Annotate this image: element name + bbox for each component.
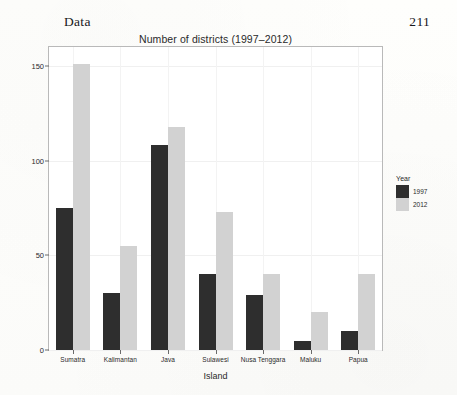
legend-swatch-2012: [396, 198, 409, 211]
bar-java-1997: [151, 145, 168, 350]
x-tick-label-papua: Papua: [349, 356, 368, 363]
x-tick-mark: [358, 350, 359, 354]
x-tick-label-maluku: Maluku: [300, 356, 321, 363]
x-tick-label-nusa-tenggara: Nusa Tenggara: [241, 356, 286, 363]
bar-group: [97, 47, 145, 350]
page-number: 211: [409, 14, 430, 30]
bar-group: [192, 47, 240, 350]
legend-swatch-1997: [396, 185, 409, 198]
chart-title: Number of districts (1997–2012): [48, 33, 383, 45]
x-axis-title: Island: [48, 371, 383, 381]
bar-kalimantan-1997: [103, 293, 120, 350]
bar-sumatra-2012: [73, 64, 90, 350]
plot-panel: Number of districts/municipalities 05010…: [48, 46, 383, 351]
x-tick-mark: [311, 350, 312, 354]
bar-kalimantan-2012: [120, 246, 137, 350]
bar-papua-2012: [358, 274, 375, 350]
bar-group: [287, 47, 335, 350]
legend-label-1997: 1997: [413, 188, 427, 195]
x-tick-mark: [73, 350, 74, 354]
bar-sulawesi-2012: [216, 212, 233, 350]
bar-maluku-1997: [294, 341, 311, 350]
bar-papua-1997: [341, 331, 358, 350]
legend-title: Year: [396, 175, 452, 182]
running-head: Data: [64, 14, 91, 30]
legend-item-2012[interactable]: 2012: [396, 198, 452, 211]
x-tick-mark: [168, 350, 169, 354]
chart-legend: Year 19972012: [396, 175, 452, 211]
x-tick-mark: [120, 350, 121, 354]
bar-sulawesi-1997: [199, 274, 216, 350]
legend-items: 19972012: [396, 185, 452, 211]
plot-area: [49, 47, 382, 350]
figure-bar-chart: Number of districts (1997–2012) Number o…: [0, 30, 457, 390]
x-tick-label-java: Java: [161, 356, 175, 363]
y-tick-label: 50: [36, 251, 49, 260]
bar-sumatra-1997: [56, 208, 73, 350]
x-tick-mark: [216, 350, 217, 354]
x-tick-label-sumatra: Sumatra: [60, 356, 85, 363]
bar-maluku-2012: [311, 312, 328, 350]
bar-java-2012: [168, 127, 185, 350]
y-tick-label: 100: [31, 156, 49, 165]
legend-label-2012: 2012: [413, 201, 427, 208]
bar-group: [334, 47, 382, 350]
y-tick-label: 150: [31, 61, 49, 70]
x-tick-mark: [263, 350, 264, 354]
bar-group: [239, 47, 287, 350]
bar-nusa-tenggara-2012: [263, 274, 280, 350]
bar-nusa-tenggara-1997: [246, 295, 263, 350]
y-tick-label: 0: [40, 346, 49, 355]
bar-group: [144, 47, 192, 350]
x-tick-label-kalimantan: Kalimantan: [104, 356, 137, 363]
bar-group: [49, 47, 97, 350]
legend-item-1997[interactable]: 1997: [396, 185, 452, 198]
x-tick-label-sulawesi: Sulawesi: [202, 356, 228, 363]
